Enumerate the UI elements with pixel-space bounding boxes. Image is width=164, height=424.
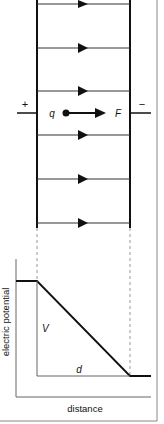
force-arrow-icon (95, 108, 106, 118)
voltage-label: V (42, 323, 50, 334)
field-diagram: + − q F V d electric potential distance (0, 0, 164, 424)
potential-curve (16, 281, 151, 376)
charge-label: q (49, 108, 55, 119)
y-axis-label: electric potential (0, 288, 11, 357)
negative-sign: − (139, 98, 145, 110)
x-axis-label: distance (67, 403, 102, 414)
force-label: F (115, 108, 122, 119)
positive-sign: + (22, 98, 28, 110)
distance-symbol-label: d (76, 364, 82, 375)
